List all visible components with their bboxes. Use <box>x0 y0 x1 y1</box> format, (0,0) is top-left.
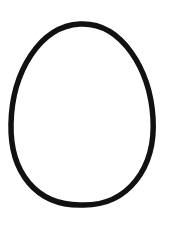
egg-outline <box>11 24 153 205</box>
egg-drawing <box>0 0 171 225</box>
